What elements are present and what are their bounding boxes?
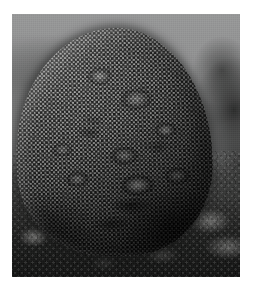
coral-colony [12,25,216,260]
coral-colony-photograph [12,14,240,277]
page-root [0,0,256,286]
